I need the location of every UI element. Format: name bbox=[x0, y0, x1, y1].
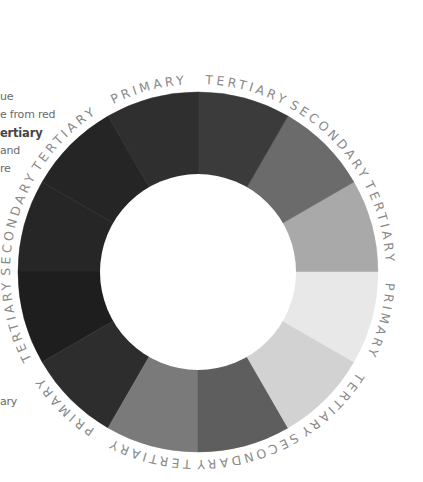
color-wheel: PRIMARYTERTIARYSECONDARYTERTIARYPRIMARYT… bbox=[0, 0, 423, 482]
wheel-center-hole bbox=[100, 174, 296, 370]
